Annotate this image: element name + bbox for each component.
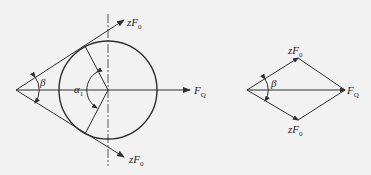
left-figure	[16, 14, 190, 166]
upper-force-label: zF0	[126, 16, 142, 31]
rhombus-lower-label: zF0	[287, 123, 303, 138]
beta-label: β	[39, 76, 46, 88]
rhombus-beta-label: β	[270, 77, 277, 89]
rhombus-resultant-label: FQ	[346, 84, 359, 99]
diagram-svg: zF0 zF0 FQ β α1 zF0 zF0 FQ β	[0, 0, 371, 175]
diagram-canvas: zF0 zF0 FQ β α1 zF0 zF0 FQ β	[0, 0, 371, 175]
alpha-label: α1	[74, 83, 84, 98]
rhombus-lower-right	[298, 90, 345, 120]
lower-radius-line	[85, 90, 108, 134]
rhombus-upper-label: zF0	[287, 44, 303, 59]
right-figure	[247, 58, 345, 120]
resultant-label: FQ	[193, 84, 206, 99]
rhombus-lower-left	[247, 90, 298, 120]
rhombus-upper-right	[298, 58, 345, 90]
upper-radius-line	[85, 46, 108, 90]
lower-force-label: zF0	[128, 153, 144, 168]
